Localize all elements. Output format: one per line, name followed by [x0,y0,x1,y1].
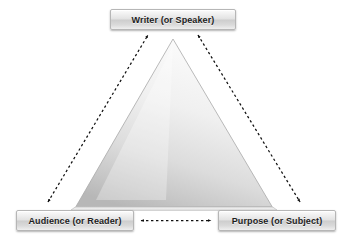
node-audience-label: Audience (or Reader) [28,216,121,226]
diagram-canvas [0,0,350,242]
node-audience[interactable]: Audience (or Reader) [16,210,134,231]
node-writer[interactable]: Writer (or Speaker) [110,9,236,30]
rhetorical-triangle-diagram: Writer (or Speaker) Audience (or Reader)… [0,0,350,242]
node-purpose[interactable]: Purpose (or Subject) [218,210,336,231]
node-purpose-label: Purpose (or Subject) [232,216,323,226]
node-writer-label: Writer (or Speaker) [132,15,215,25]
triangle-highlight [96,45,173,200]
